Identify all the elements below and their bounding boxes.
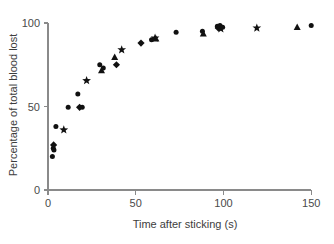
x-tick-label: 100: [214, 197, 232, 209]
point-circle: [220, 25, 225, 30]
point-triangle: [294, 23, 301, 30]
y-tick-label: 0: [34, 184, 40, 196]
x-tick-label: 150: [302, 197, 320, 209]
point-circle: [75, 91, 80, 96]
point-circle: [174, 30, 179, 35]
y-axis-title: Percentage of total blood lost: [7, 34, 19, 176]
point-circle: [66, 105, 71, 110]
y-tick-label: 50: [28, 101, 40, 113]
x-axis-title: Time after sticking (s): [133, 218, 238, 230]
figure-container: 050100050100150 Time after sticking (s) …: [0, 0, 334, 244]
point-triangle: [111, 53, 118, 60]
point-circle: [50, 154, 55, 159]
tick-labels: 050100050100150: [22, 17, 321, 209]
point-circle: [53, 124, 58, 129]
x-tick-label: 0: [45, 197, 51, 209]
point-star: [117, 45, 126, 53]
x-tick-label: 50: [130, 197, 142, 209]
point-circle: [101, 66, 106, 71]
point-circle: [51, 147, 56, 152]
data-points: [50, 23, 314, 159]
point-star: [82, 76, 91, 84]
y-tick-label: 100: [22, 17, 40, 29]
point-diamond: [113, 61, 120, 68]
point-star: [59, 125, 68, 133]
scatter-plot: 050100050100150 Time after sticking (s) …: [0, 0, 334, 244]
point-diamond: [137, 39, 144, 46]
point-circle: [309, 23, 314, 28]
point-circle: [80, 105, 85, 110]
axes: [48, 23, 311, 190]
point-star: [252, 23, 261, 31]
